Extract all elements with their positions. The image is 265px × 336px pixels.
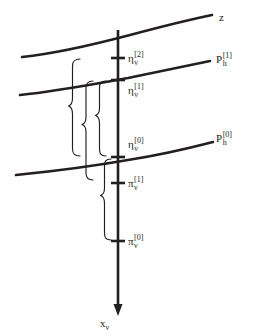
axis-arrowhead-icon	[114, 304, 123, 316]
axis-label-x-nu-sub: ν	[106, 323, 110, 332]
curve-ph0	[16, 142, 213, 175]
tick-label-eta-nu-0: η[0]ν	[128, 137, 144, 153]
curve-label-ph1: P[1]h	[216, 52, 232, 68]
axis-label-x-nu: xν	[100, 314, 109, 332]
curve-label-ph0: P[0]h	[216, 131, 232, 147]
tick-label-eta-nu-2-scripts: [2]ν	[134, 51, 143, 67]
curve-label-ph0-scripts: [0]h	[223, 131, 232, 147]
tick-label-eta-nu-2-base: η	[128, 52, 134, 64]
tick-label-pi-nu-0-base: π	[128, 235, 134, 247]
curve-label-ph0-sub: h	[223, 139, 232, 147]
curve-ph1	[20, 61, 210, 95]
curve-label-z-base: z	[219, 11, 224, 23]
tick-label-eta-nu-1-scripts: [1]ν	[134, 83, 143, 99]
tick-label-pi-nu-1-sub: ν	[134, 184, 143, 192]
tick-label-pi-nu-0: π[0]ν	[128, 234, 143, 250]
tick-label-eta-nu-1-base: η	[128, 84, 134, 96]
diagram-canvas: z P[1]h P[0]h η[2]ν η[1]ν η[0]ν π[1]ν π[…	[0, 0, 265, 336]
tick-label-eta-nu-1: η[1]ν	[128, 83, 144, 99]
curve-label-ph1-scripts: [1]h	[223, 52, 232, 68]
curve-label-ph1-sub: h	[223, 60, 232, 68]
curve-label-ph1-base: P	[216, 53, 222, 65]
tick-label-pi-nu-1: π[1]ν	[128, 176, 143, 192]
tick-label-eta-nu-0-scripts: [0]ν	[134, 137, 143, 153]
tick-label-eta-nu-1-sub: ν	[134, 91, 143, 99]
tick-label-pi-nu-1-base: π	[128, 177, 134, 189]
tick-label-eta-nu-2-sub: ν	[134, 59, 143, 67]
tick-label-pi-nu-0-scripts: [0]ν	[134, 234, 143, 250]
brace-inner-eta1-eta0	[96, 81, 107, 156]
curve-label-ph0-base: P	[216, 132, 222, 144]
brace-outer-eta2-eta0	[69, 59, 81, 156]
tick-label-eta-nu-0-base: η	[128, 138, 134, 150]
brace-lower-eta0-pi0	[101, 159, 112, 240]
tick-label-eta-nu-2: η[2]ν	[128, 51, 144, 67]
tick-label-pi-nu-1-scripts: [1]ν	[134, 176, 143, 192]
tick-label-eta-nu-0-sub: ν	[134, 145, 143, 153]
curve-label-z: z	[219, 8, 224, 24]
tick-label-pi-nu-0-sub: ν	[134, 242, 143, 250]
